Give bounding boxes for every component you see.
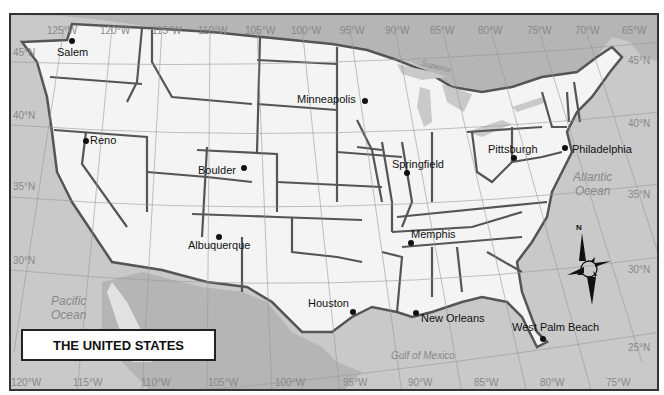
latitude-label: 25°N: [628, 343, 650, 353]
longitude-label: 125°W: [47, 26, 77, 36]
city-label-new-orleans: New Orleans: [421, 313, 485, 324]
longitude-label: 110°W: [141, 378, 170, 388]
latitude-label: 40°N: [13, 111, 35, 121]
atlantic-line-2: Ocean: [573, 185, 612, 199]
longitude-label: 75°W: [527, 26, 552, 36]
longitude-label: 110°W: [198, 26, 227, 36]
water-label-gulf: Gulf of Mexico: [391, 350, 455, 362]
city-dot-houston: [350, 309, 356, 315]
longitude-label: 105°W: [245, 26, 275, 36]
city-dot-pittsburgh: [511, 155, 517, 161]
longitude-label: 95°W: [340, 26, 365, 36]
city-label-memphis: Memphis: [411, 229, 456, 240]
latitude-label: 45°N: [13, 48, 35, 58]
water-label-atlantic: Atlantic Ocean: [573, 171, 612, 199]
latitude-label: 40°N: [628, 119, 650, 129]
compass-rose-icon: N: [567, 223, 617, 307]
longitude-label: 80°W: [478, 26, 503, 36]
city-label-philadelphia: Philadelphia: [572, 144, 632, 155]
us-map: 125°W 120°W 115°W 110°W 105°W 100°W 95°W…: [9, 13, 659, 391]
map-title: THE UNITED STATES: [21, 329, 216, 361]
water-label-pacific: Pacific Ocean: [51, 295, 86, 323]
city-dot-springfield: [404, 170, 410, 176]
atlantic-line-1: Atlantic: [573, 171, 612, 185]
city-dot-new-orleans: [413, 310, 419, 316]
longitude-label: 105°W: [208, 378, 238, 388]
latitude-label: 35°N: [13, 182, 35, 192]
latitude-label: 30°N: [13, 256, 35, 266]
latitude-label: 45°N: [628, 56, 650, 66]
city-label-reno: Reno: [90, 135, 116, 146]
longitude-label: 115°W: [152, 26, 181, 36]
city-dot-boulder: [241, 165, 247, 171]
city-dot-salem: [69, 38, 75, 44]
longitude-label: 90°W: [385, 26, 410, 36]
latitude-label: 30°N: [628, 265, 650, 275]
city-dot-philadelphia: [562, 145, 568, 151]
pacific-line-2: Ocean: [51, 309, 86, 323]
longitude-label: 95°W: [343, 378, 368, 388]
city-label-minneapolis: Minneapolis: [297, 94, 356, 105]
city-dot-west-palm-beach: [540, 336, 546, 342]
longitude-label: 100°W: [275, 378, 305, 388]
city-label-springfield: Springfield: [392, 159, 444, 170]
city-label-pittsburgh: Pittsburgh: [488, 144, 538, 155]
pacific-line-1: Pacific: [51, 295, 86, 309]
city-label-boulder: Boulder: [198, 165, 236, 176]
longitude-label: 90°W: [408, 378, 433, 388]
longitude-label: 115°W: [73, 378, 102, 388]
city-label-albuquerque: Albuquerque: [188, 240, 250, 251]
longitude-label: 75°W: [606, 378, 631, 388]
city-dot-memphis: [408, 240, 414, 246]
longitude-label: 85°W: [474, 378, 499, 388]
city-label-houston: Houston: [308, 298, 349, 309]
longitude-label: 70°W: [575, 26, 600, 36]
latitude-label: 35°N: [628, 190, 650, 200]
longitude-label: 85°W: [430, 26, 455, 36]
city-dot-reno: [83, 138, 89, 144]
city-dot-minneapolis: [362, 98, 368, 104]
longitude-label: 120°W: [11, 378, 41, 388]
city-label-salem: Salem: [57, 47, 88, 58]
longitude-label: 120°W: [100, 26, 130, 36]
longitude-label: 100°W: [291, 26, 321, 36]
longitude-label: 80°W: [540, 378, 565, 388]
longitude-label: 65°W: [622, 26, 647, 36]
gulf-line-1: Gulf of Mexico: [391, 350, 455, 362]
city-label-west-palm-beach: West Palm Beach: [512, 322, 599, 333]
